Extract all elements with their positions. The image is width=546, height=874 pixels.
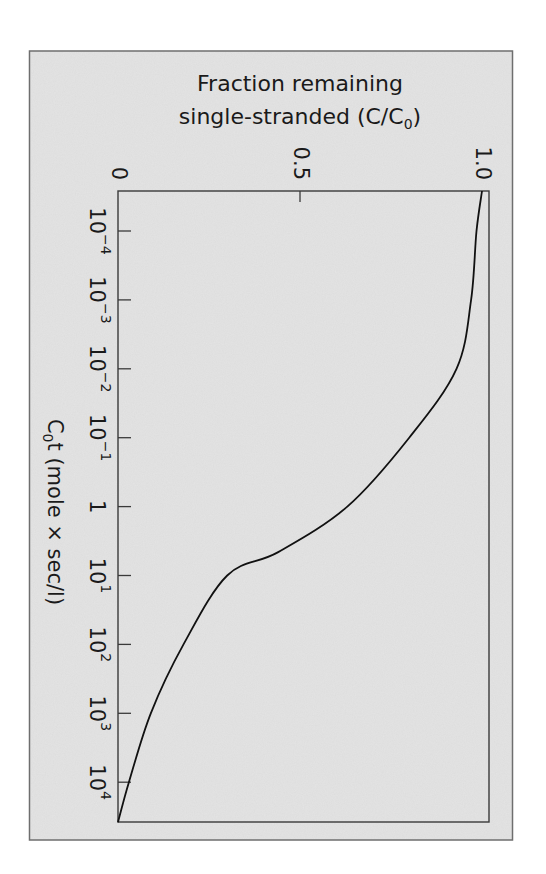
cot-axis-title: C0t (mole × sec/l): [40, 419, 67, 605]
fraction-tick-label: 0.5: [289, 147, 313, 180]
cot-tick-labels: 10−410−310−210−11101102103104: [85, 207, 114, 800]
chart: Fraction remaining single-stranded (C/C0…: [0, 0, 546, 874]
fraction-axis-title-line2: single-stranded (C/C0): [179, 104, 421, 132]
fraction-axis-title-line1: Fraction remaining: [197, 71, 403, 96]
fraction-tick-label: 1.0: [471, 147, 495, 180]
fraction-tick-label: 0: [107, 167, 131, 180]
cot-tick-label: 1: [85, 500, 109, 513]
